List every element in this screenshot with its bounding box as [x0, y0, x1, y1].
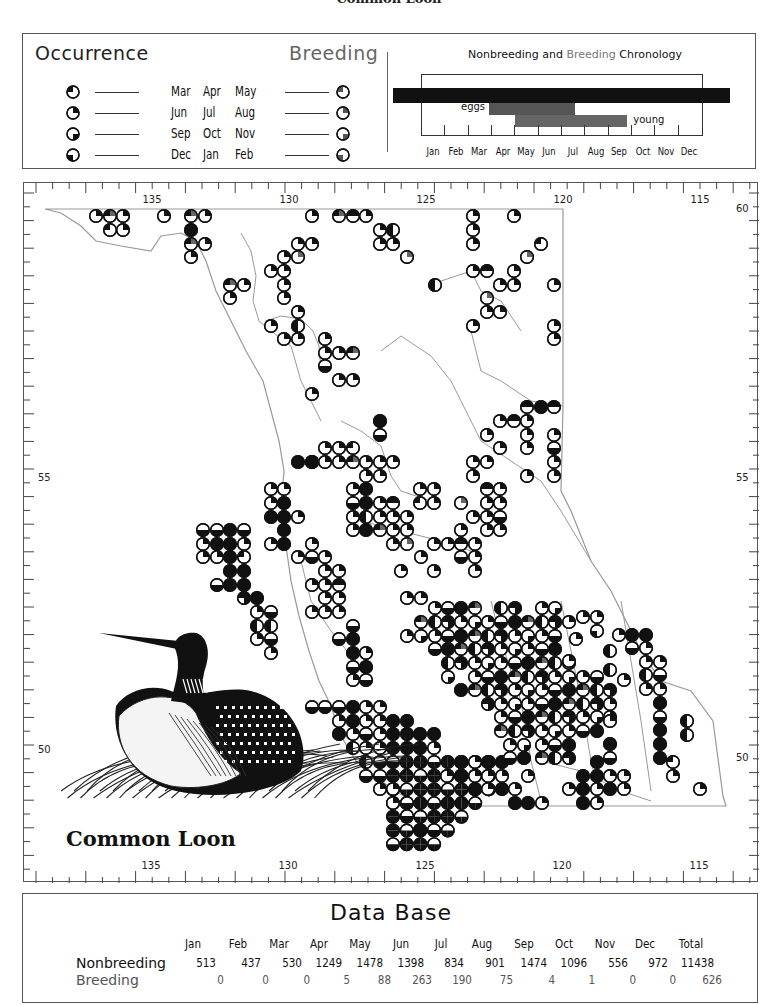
- occurrence-dot: [278, 483, 291, 496]
- chronology-month-label: Feb: [446, 146, 466, 157]
- occurrence-dot: [522, 630, 535, 643]
- chronology-chart: Nonbreeding and Breeding Chronology eggs…: [395, 34, 755, 170]
- legend-month: Aug: [235, 104, 255, 120]
- occurrence-dot: [319, 551, 332, 564]
- occurrence-dot: [265, 320, 278, 333]
- occurrence-dot: [495, 698, 508, 711]
- database-row-label: Breeding: [76, 972, 139, 988]
- occurrence-dot: [654, 669, 667, 682]
- occurrence-dot: [185, 251, 198, 264]
- chronology-tick: [468, 125, 469, 135]
- occurrence-dot: [508, 265, 521, 278]
- occurrence-dot: [442, 671, 455, 684]
- occurrence-dot: [265, 265, 278, 278]
- occurrence-dot: [521, 442, 534, 455]
- occurrence-dot: [238, 551, 251, 564]
- occurrence-dot: [197, 538, 210, 551]
- database-panel: Data Base JanFebMarAprMayJunJulAugSepOct…: [22, 893, 758, 1003]
- occurrence-dot: [548, 429, 561, 442]
- occurrence-dot: [495, 657, 508, 670]
- occurrence-dot: [429, 630, 442, 643]
- occurrence-dot: [604, 783, 617, 796]
- occurrence-dot: [591, 770, 604, 783]
- occurrence-dot: [292, 251, 305, 264]
- occurrence-dot: [548, 470, 561, 483]
- occurrence-dot: [374, 456, 387, 469]
- occurrence-dot: [495, 671, 508, 684]
- occurrence-dot: [481, 524, 494, 537]
- occurrence-dot: [563, 684, 576, 697]
- occurrence-dot: [495, 643, 508, 656]
- legend-dash: [95, 92, 139, 93]
- occurrence-dot: [401, 797, 414, 810]
- occurrence-dot: [509, 725, 522, 738]
- legend-dash: [95, 155, 139, 156]
- occurrence-symbol-icon: [65, 84, 81, 100]
- occurrence-dot: [509, 671, 522, 684]
- occurrence-dot: [591, 684, 604, 697]
- occurrence-dot: [333, 579, 346, 592]
- breeding-symbol-icon: [335, 147, 351, 163]
- occurrence-dot: [387, 811, 400, 824]
- database-column-header: Aug: [464, 936, 501, 951]
- database-cell: 556: [591, 955, 628, 970]
- database-cell: 1478: [346, 955, 383, 970]
- occurrence-dot: [549, 643, 562, 656]
- occurrence-dot: [442, 811, 455, 824]
- occurrence-dot: [549, 616, 562, 629]
- breeding-title: Breeding: [289, 42, 378, 64]
- occurrence-dot: [374, 497, 387, 510]
- occurrence-dot: [654, 683, 667, 696]
- occurrence-dot: [374, 742, 387, 755]
- occurrence-dot: [522, 684, 535, 697]
- occurrence-dot: [414, 769, 427, 782]
- latitude-label: 50: [736, 752, 749, 763]
- occurrence-dot: [536, 630, 549, 643]
- occurrence-dot: [509, 657, 522, 670]
- occurrence-dot: [504, 739, 517, 752]
- occurrence-dot: [535, 238, 548, 251]
- longitude-label: 115: [690, 194, 709, 205]
- occurrence-dot: [548, 320, 561, 333]
- occurrence-dot: [387, 497, 400, 510]
- occurrence-dot: [347, 728, 360, 741]
- legend-dash: [95, 113, 139, 114]
- occurrence-dot: [482, 630, 495, 643]
- occurrence-dot: [401, 630, 414, 643]
- occurrence-dot: [577, 770, 590, 783]
- occurrence-dot: [428, 824, 441, 837]
- legend-row: MarAprMay: [63, 82, 373, 104]
- occurrence-dot: [414, 797, 427, 810]
- occurrence-dot: [482, 756, 495, 769]
- occurrence-dot: [563, 616, 576, 629]
- occurrence-dot: [333, 728, 346, 741]
- occurrence-dot: [117, 224, 130, 237]
- occurrence-dot: [185, 224, 198, 237]
- occurrence-dot: [414, 728, 427, 741]
- occurrence-dot: [278, 497, 291, 510]
- occurrence-dot: [251, 606, 264, 619]
- database-column-header: Jul: [423, 936, 460, 951]
- chronology-tick: [514, 125, 515, 135]
- occurrence-dot: [347, 715, 360, 728]
- occurrence-dot: [521, 470, 534, 483]
- legend-month: Jun: [171, 104, 187, 120]
- occurrence-dot: [536, 684, 549, 697]
- database-cell: 437: [224, 955, 261, 970]
- occurrence-dot: [347, 674, 360, 687]
- occurrence-dot: [360, 715, 373, 728]
- occurrence-dot: [211, 524, 224, 537]
- occurrence-dot: [319, 606, 332, 619]
- database-cell: 972: [631, 955, 668, 970]
- occurrence-dot: [387, 838, 400, 851]
- occurrence-dot: [238, 538, 251, 551]
- occurrence-dot: [455, 657, 468, 670]
- occurrence-dot: [347, 442, 360, 455]
- database-row: Breeding000588263190754100626: [23, 972, 759, 988]
- occurrence-dot: [577, 797, 590, 810]
- legend-dash: [285, 134, 329, 135]
- occurrence-dot: [319, 456, 332, 469]
- occurrence-dot: [455, 756, 468, 769]
- occurrence-dot: [469, 551, 482, 564]
- occurrence-dot: [626, 629, 639, 642]
